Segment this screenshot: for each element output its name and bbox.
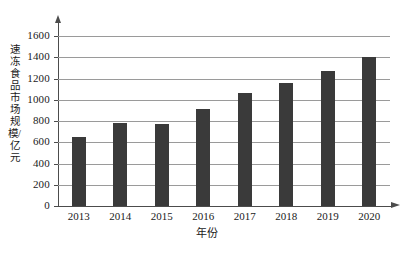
x-axis-tick-label: 2014	[100, 210, 140, 223]
bar-2014	[113, 123, 127, 206]
y-axis-tick-label: 200	[0, 179, 50, 190]
y-axis-tick	[54, 79, 58, 80]
y-axis-tick	[54, 36, 58, 37]
y-axis-tick-label: 1600	[0, 30, 50, 41]
gridline	[58, 142, 390, 143]
y-axis-line	[58, 22, 59, 206]
x-axis-line	[58, 206, 393, 207]
x-axis-tick-label: 2018	[266, 210, 306, 223]
x-axis-tick-label: 2017	[225, 210, 265, 223]
x-axis-title: 年份	[0, 227, 413, 240]
x-axis-tick-label: 2015	[142, 210, 182, 223]
x-axis-tick-label: 2019	[308, 210, 348, 223]
bar-chart: 速冻食品市场规模/亿元 0200400600800100012001400160…	[0, 0, 413, 257]
y-axis-tick	[54, 164, 58, 165]
x-axis-tick-label: 2020	[349, 210, 389, 223]
bar-2015	[155, 124, 169, 206]
y-axis-tick-label: 0	[0, 200, 50, 211]
y-axis-tick	[54, 100, 58, 101]
bar-2017	[238, 93, 252, 206]
y-axis-tick-label: 800	[0, 115, 50, 126]
bar-2013	[72, 137, 86, 206]
gridline	[58, 36, 390, 37]
y-axis-tick-label: 1000	[0, 94, 50, 105]
y-axis-tick	[54, 142, 58, 143]
bar-2016	[196, 109, 210, 206]
gridline	[58, 185, 390, 186]
gridline	[58, 121, 390, 122]
x-axis-arrow-icon	[391, 202, 400, 208]
y-axis-tick-label: 600	[0, 136, 50, 147]
x-axis-tick-label: 2013	[59, 210, 99, 223]
x-axis-tick-label: 2016	[183, 210, 223, 223]
y-axis-tick	[54, 121, 58, 122]
bar-2019	[321, 71, 335, 206]
y-axis-tick	[54, 206, 58, 207]
bar-2018	[279, 83, 293, 206]
y-axis-tick-label: 400	[0, 158, 50, 169]
gridline	[58, 164, 390, 165]
gridline	[58, 79, 390, 80]
gridline	[58, 57, 390, 58]
y-axis-tick	[54, 57, 58, 58]
y-axis-tick-label: 1400	[0, 51, 50, 62]
y-axis-tick-label: 1200	[0, 73, 50, 84]
gridline	[58, 100, 390, 101]
y-axis-tick	[54, 185, 58, 186]
bar-2020	[362, 57, 376, 206]
y-axis-arrow-icon	[55, 15, 61, 23]
